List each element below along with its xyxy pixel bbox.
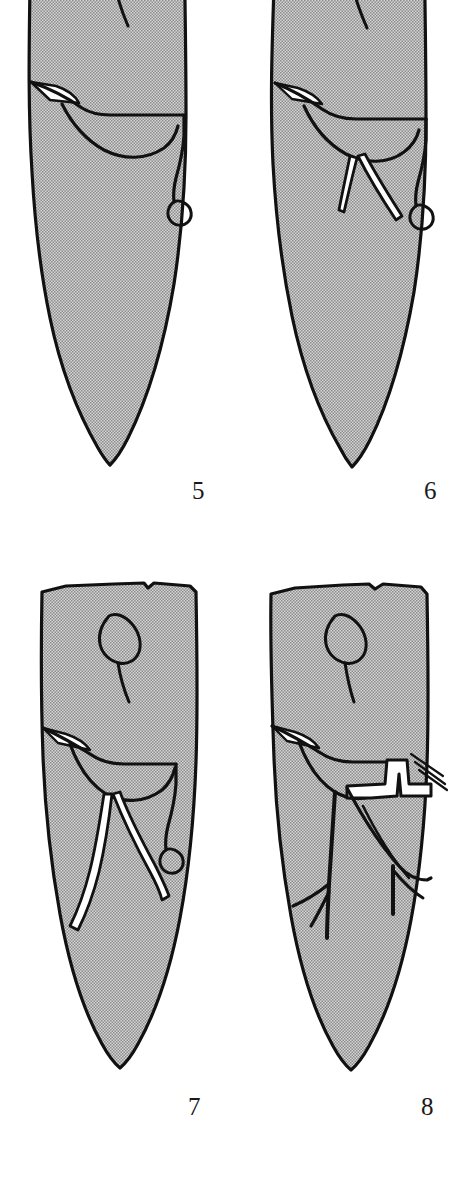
figure-number-5: 5 (192, 478, 205, 503)
figure-number-7: 7 (188, 1094, 201, 1119)
figure-5-drawing (6, 0, 221, 540)
blade-outline-5 (29, 0, 186, 465)
figure-6 (244, 0, 455, 540)
blade-outline-7 (41, 583, 197, 1068)
figure-number-6: 6 (424, 478, 437, 503)
figure-8 (251, 570, 455, 1170)
figure-8-drawing (251, 570, 455, 1170)
figure-5 (6, 0, 221, 540)
blade-outline-6 (271, 0, 426, 467)
blade-outline-8 (271, 584, 428, 1070)
figure-6-drawing (244, 0, 455, 540)
plate-canvas: 5 6 7 8 (0, 0, 455, 1192)
figure-number-8: 8 (421, 1094, 434, 1119)
figure-7-drawing (14, 570, 230, 1170)
figure-7 (14, 570, 230, 1170)
